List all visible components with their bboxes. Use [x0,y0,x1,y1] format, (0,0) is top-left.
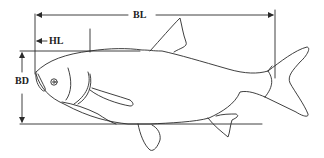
fish-eye [51,79,57,85]
fish-pectoral-fin [90,88,133,106]
bd-label: BD [14,76,30,86]
fish-pupil [53,81,55,83]
fish-body-dorsal-outline [36,49,272,73]
fish-mouth [36,72,45,91]
fish-gill-line-1 [66,68,71,100]
bl-label: BL [132,10,147,20]
fish-anal-fin [208,114,238,137]
fish-dorsal-fin [150,18,186,52]
fish-pelvic-fin [138,124,160,150]
fish-measurement-diagram: BL HL BD [0,0,324,158]
fish-gill-line-2 [74,72,89,104]
hl-label: HL [48,36,64,46]
fish-tail-base-line [265,71,272,97]
fish-drawing [0,0,324,158]
fish-body-ventral-outline [36,74,265,124]
